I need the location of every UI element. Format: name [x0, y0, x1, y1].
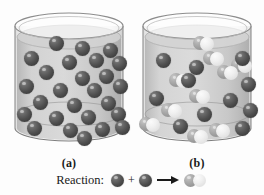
product-atom-pale [194, 130, 208, 144]
reactant-sphere [189, 60, 204, 75]
product-atom-pale [168, 104, 182, 118]
reactant-sphere [223, 93, 238, 108]
reactant-sphere [49, 36, 64, 51]
product-molecule [203, 51, 225, 65]
reactant-sphere [24, 51, 39, 66]
legend-reactant-b-icon [139, 174, 152, 187]
reaction-figure: (a) [0, 0, 264, 195]
product-molecule [217, 65, 239, 79]
reactant-sphere [67, 98, 82, 113]
reactant-sphere [75, 41, 90, 56]
product-atom-pale [146, 118, 160, 132]
reactant-sphere [103, 43, 118, 58]
product-molecule [187, 129, 209, 143]
legend-label: Reaction: [56, 173, 104, 188]
legend-product-icon [184, 174, 208, 187]
reactant-sphere [87, 83, 102, 98]
product-molecule [189, 89, 211, 103]
reactant-sphere [33, 95, 48, 110]
product-molecule [139, 117, 161, 131]
reactant-sphere [77, 131, 92, 146]
reactant-sphere [156, 53, 171, 68]
legend-reactant-a-icon [111, 174, 124, 187]
reactant-sphere [95, 122, 110, 137]
reactant-sphere [241, 77, 256, 92]
reaction-legend: Reaction: + [0, 168, 264, 192]
reactant-sphere [99, 69, 114, 84]
reactant-sphere [112, 56, 127, 71]
reactant-sphere [53, 83, 68, 98]
reactant-sphere [81, 110, 96, 125]
reactant-sphere [235, 121, 250, 136]
product-atom-pale [196, 90, 210, 104]
reactant-sphere [235, 51, 250, 66]
reactant-sphere [27, 121, 42, 136]
beaker-a-molecules [10, 10, 128, 150]
reactant-sphere [115, 120, 130, 135]
reactant-sphere [243, 103, 258, 118]
reactant-sphere [173, 119, 188, 134]
beaker-a: (a) [10, 10, 128, 150]
product-atom-pale [216, 124, 230, 138]
reactant-sphere [49, 111, 64, 126]
product-molecule [193, 36, 215, 50]
product-atom-pale [224, 66, 238, 80]
product-molecule [209, 123, 231, 137]
product-molecule [161, 103, 183, 117]
beaker-b: (b) [138, 10, 256, 150]
reactant-sphere [75, 71, 90, 86]
legend-plus-sign: + [128, 174, 135, 186]
reactant-sphere [17, 107, 32, 122]
reactant-sphere [197, 107, 212, 122]
reactant-sphere [63, 123, 78, 138]
reactant-sphere [62, 55, 77, 70]
reactant-sphere [39, 65, 54, 80]
product-atom-pale [200, 37, 214, 51]
product-atom-pale [210, 52, 224, 66]
reactant-sphere [89, 53, 104, 68]
reactant-sphere [113, 79, 128, 94]
reactant-sphere [19, 79, 34, 94]
reactant-sphere [181, 73, 196, 88]
legend-arrow-icon [157, 175, 179, 185]
beaker-b-molecules [138, 10, 256, 150]
